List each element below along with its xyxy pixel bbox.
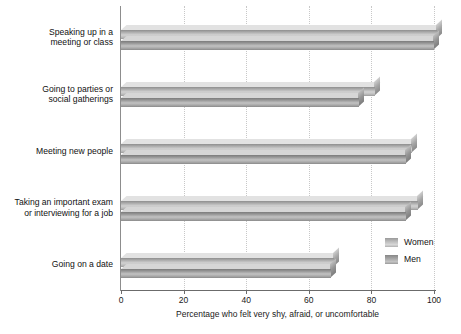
bar-women-group-2 (121, 139, 412, 148)
bar-men-group-3 (121, 207, 406, 216)
legend-label-women: Women (404, 237, 433, 247)
x-tick-label-100: 100 (427, 295, 441, 305)
legend-swatch-men-icon (385, 255, 398, 264)
bar-women-group-1 (121, 82, 375, 91)
category-label-line: Going to parties or (0, 84, 113, 95)
x-tick-0 (121, 290, 122, 294)
bar-front-face (121, 98, 359, 107)
legend-item-men: Men (385, 254, 433, 264)
x-tick-60 (309, 290, 310, 294)
category-label-0: Speaking up in ameeting or class (0, 27, 113, 48)
x-tick-100 (434, 290, 435, 294)
x-tick-80 (371, 290, 372, 294)
x-tick-label-20: 20 (179, 295, 188, 305)
category-label-2: Meeting new people (0, 146, 113, 157)
category-label-1: Going to parties orsocial gatherings (0, 84, 113, 105)
x-axis-line (121, 290, 436, 291)
category-label-4: Going on a date (0, 259, 113, 270)
x-tick-20 (184, 290, 185, 294)
legend-label-men: Men (404, 254, 421, 264)
category-label-line: Speaking up in a (0, 27, 113, 38)
category-label-line: Going on a date (0, 259, 113, 270)
x-tick-label-0: 0 (119, 295, 124, 305)
x-tick-label-60: 60 (304, 295, 313, 305)
chart-legend: Women Men (385, 237, 433, 271)
bar-men-group-0 (121, 36, 434, 45)
x-axis-title: Percentage who felt very shy, afraid, or… (121, 309, 434, 319)
bar-men-group-2 (121, 150, 406, 159)
x-tick-label-80: 80 (367, 295, 376, 305)
bar-men-group-4 (121, 264, 331, 273)
category-label-line: meeting or class (0, 37, 113, 48)
shyness-bar-chart: 020406080100 Speaking up in ameeting or … (0, 0, 461, 334)
category-label-line: Meeting new people (0, 146, 113, 157)
legend-swatch-women-icon (385, 238, 398, 247)
category-label-line: social gatherings (0, 94, 113, 105)
bar-front-face (121, 41, 434, 50)
bar-front-face (121, 212, 406, 221)
category-label-3: Taking an important examor interviewing … (0, 197, 113, 218)
legend-item-women: Women (385, 237, 433, 247)
x-tick-40 (246, 290, 247, 294)
bar-front-face (121, 155, 406, 164)
bar-women-group-4 (121, 253, 334, 262)
category-label-line: or interviewing for a job (0, 208, 113, 219)
category-label-line: Taking an important exam (0, 197, 113, 208)
bar-women-group-0 (121, 25, 437, 34)
x-tick-label-40: 40 (241, 295, 250, 305)
bar-men-group-1 (121, 93, 359, 102)
bar-women-group-3 (121, 196, 418, 205)
bar-front-face (121, 269, 331, 278)
